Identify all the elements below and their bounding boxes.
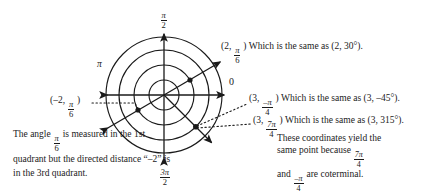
callout-2pi6-text: Which is the same as (2, 30°).	[249, 41, 363, 51]
point-marker-3-neg-pi-4	[193, 124, 199, 130]
callout-2pi6-close: )	[243, 41, 246, 51]
note-coterminal-line1: These coordinates yield the	[277, 133, 381, 145]
leader-line-3-7pi-4	[197, 124, 251, 128]
polar-coordinates-figure: π 2 3π 2 π 0 (–2, π 6 ) (2, π 6 ) Which …	[0, 0, 428, 191]
callout-3negpi4-close: )	[276, 93, 279, 103]
callout-3-7pi4-close: )	[280, 115, 283, 125]
note-coterminal-line2: same point because 7π 4	[277, 145, 381, 169]
note-quadrant: The angle π 6 is measured in the 1st qua…	[13, 128, 178, 181]
leader-line-neg2	[92, 103, 138, 109]
axis-label-pi-over-2: π 2	[160, 6, 167, 30]
note-quadrant-before: The angle	[13, 129, 51, 139]
callout-2pi6-open: (2,	[221, 41, 231, 51]
callout-neg2-open: (–2,	[50, 95, 65, 105]
callout-neg-two-pi-over-six: (–2, π 6 )	[50, 95, 80, 119]
callout-3negpi4-open: (3,	[249, 93, 259, 103]
callout-two-pi-over-six: (2, π 6 ) Which is the same as (2, 30°).	[221, 41, 363, 65]
callout-3negpi4-text: Which is the same as (3, –45°).	[281, 93, 400, 103]
note-coterminal-line3: and –π 4 are coterminal.	[277, 169, 381, 191]
note-coterminal: These coordinates yield the same point b…	[277, 133, 381, 191]
callout-3-7pi4-text: Which is the same as (3, 315°).	[285, 115, 404, 125]
axis-label-pi: π	[97, 59, 102, 71]
callout-neg2-close: )	[77, 95, 80, 105]
callout-three-neg-pi-over-four: (3, –π 4 ) Which is the same as (3, –45°…	[249, 93, 400, 117]
point-marker-2-pi-6	[187, 77, 192, 82]
axis-label-zero: 0	[229, 76, 234, 88]
callout-3-7pi4-open: (3,	[253, 115, 263, 125]
